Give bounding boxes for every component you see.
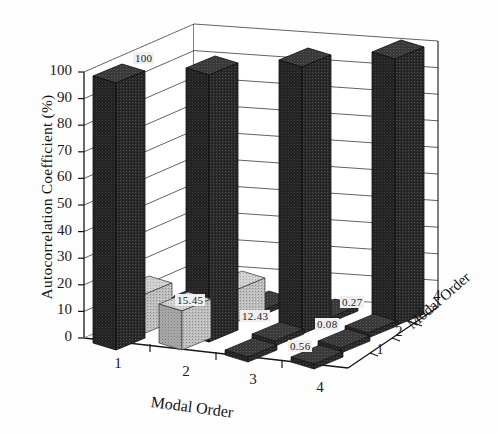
x-tick-1: 1 [108,355,128,372]
value-label-15-45: 15.45 [175,294,205,306]
chart-canvas: Autocorrelation Coefficient (%) 100 90 8… [0,0,497,434]
y-tick-100: 100 [38,62,72,79]
y-tick-0: 0 [38,328,72,345]
value-label-12-43: 12.43 [240,310,270,322]
y-tick-50: 50 [38,195,72,212]
y-tick-70: 70 [38,142,72,159]
y-tick-20: 20 [38,275,72,292]
bar-x4-z4 [372,40,424,326]
x-tick-3: 3 [243,371,263,388]
y-tick-10: 10 [38,301,72,318]
value-label-0-27: 0.27 [340,296,364,308]
value-label-0-08: 0.08 [315,318,339,330]
chart-svg [0,0,497,434]
value-label-0-56: 0.56 [288,340,312,352]
y-tick-60: 60 [38,168,72,185]
y-tick-80: 80 [38,115,72,132]
y-tick-40: 40 [38,222,72,239]
z-tick-1: 1 [372,342,388,358]
y-tick-30: 30 [38,248,72,265]
bar-x1-z1 [93,64,145,350]
bar-x3-z3 [279,48,331,334]
x-tick-4: 4 [310,379,330,396]
x-tick-2: 2 [176,363,196,380]
y-tick-90: 90 [38,89,72,106]
z-tick-2: 2 [391,324,407,340]
y-axis-ticks [78,72,84,338]
value-label-100: 100 [133,52,154,64]
